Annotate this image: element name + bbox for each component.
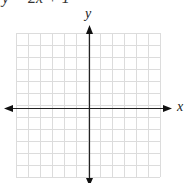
x-axis-label: x: [177, 99, 183, 115]
x-axis-right-arrow-icon: [163, 105, 172, 112]
y-axis: [86, 25, 93, 183]
y-axis-down-arrow-icon: [86, 178, 93, 183]
y-axis-up-arrow-icon: [86, 25, 93, 34]
y-axis-label: y: [85, 6, 91, 22]
x-axis-left-arrow-icon: [4, 105, 13, 112]
coordinate-plane: [0, 0, 187, 183]
grid-lines: [16, 33, 161, 178]
